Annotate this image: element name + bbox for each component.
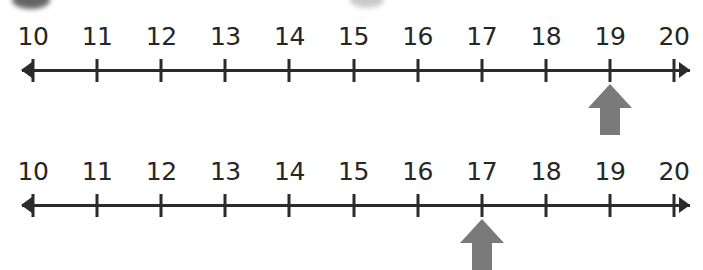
number-line-2-axis [22, 204, 690, 207]
tick-mark-16 [416, 59, 419, 82]
tick-mark-14 [288, 194, 291, 217]
tick-label-15: 15 [338, 157, 369, 187]
tick-mark-20 [673, 59, 676, 82]
tick-label-18: 18 [530, 22, 561, 52]
tick-label-11: 11 [82, 157, 113, 187]
tick-mark-13 [224, 194, 227, 217]
tick-label-14: 14 [274, 157, 305, 187]
pointer-arrow-icon-17 [460, 219, 504, 270]
tick-label-12: 12 [146, 22, 177, 52]
tick-mark-15 [352, 194, 355, 217]
tick-label-18: 18 [530, 157, 561, 187]
number-line-worksheet: 1011121314151617181920 10111213141516171… [0, 0, 703, 270]
tick-mark-15 [352, 59, 355, 82]
tick-label-10: 10 [18, 157, 49, 187]
tick-label-20: 20 [659, 157, 690, 187]
tick-label-19: 19 [594, 157, 625, 187]
tick-label-12: 12 [146, 157, 177, 187]
tick-mark-17 [480, 59, 483, 82]
tick-label-20: 20 [659, 22, 690, 52]
tick-label-17: 17 [466, 22, 497, 52]
tick-mark-14 [288, 59, 291, 82]
number-line-2-right-arrowhead-icon [679, 197, 690, 213]
tick-label-13: 13 [210, 22, 241, 52]
number-line-2-labels: 1011121314151617181920 [0, 157, 703, 191]
number-line-2-left-arrowhead-icon [21, 197, 32, 213]
tick-mark-18 [544, 194, 547, 217]
tick-mark-11 [96, 194, 99, 217]
tick-label-11: 11 [82, 22, 113, 52]
tick-label-14: 14 [274, 22, 305, 52]
tick-label-16: 16 [402, 157, 433, 187]
tick-mark-17 [480, 194, 483, 217]
tick-mark-19 [608, 59, 611, 82]
tick-mark-18 [544, 59, 547, 82]
tick-label-13: 13 [210, 157, 241, 187]
tick-label-17: 17 [466, 157, 497, 187]
pointer-arrow-icon-19 [588, 84, 632, 135]
tick-label-16: 16 [402, 22, 433, 52]
number-line-1-axis [22, 69, 690, 72]
tick-mark-12 [160, 194, 163, 217]
tick-mark-19 [608, 194, 611, 217]
tick-mark-10 [32, 59, 35, 82]
tick-mark-11 [96, 59, 99, 82]
tick-mark-13 [224, 59, 227, 82]
tick-mark-16 [416, 194, 419, 217]
tick-label-19: 19 [594, 22, 625, 52]
tick-mark-12 [160, 59, 163, 82]
tick-label-10: 10 [18, 22, 49, 52]
tick-mark-10 [32, 194, 35, 217]
tick-label-15: 15 [338, 22, 369, 52]
number-line-1-right-arrowhead-icon [679, 62, 690, 78]
number-line-1-left-arrowhead-icon [21, 62, 32, 78]
number-line-1: 1011121314151617181920 [0, 0, 703, 135]
tick-mark-20 [673, 194, 676, 217]
number-line-2: 1011121314151617181920 [0, 135, 703, 270]
number-line-1-labels: 1011121314151617181920 [0, 22, 703, 56]
